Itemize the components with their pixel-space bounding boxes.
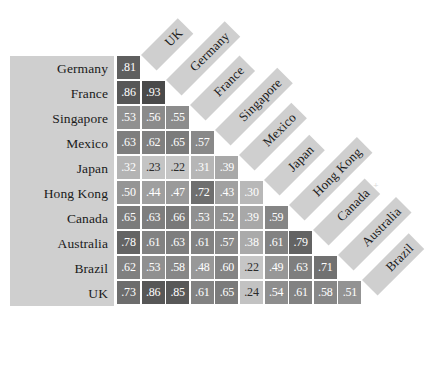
matrix-cell: .44 (142, 181, 165, 204)
matrix-cell: .93 (142, 81, 165, 104)
matrix-cell: .63 (289, 256, 312, 279)
matrix-cell: .51 (338, 281, 361, 304)
matrix-cell: .57 (191, 131, 214, 154)
matrix-cell: .57 (215, 231, 238, 254)
matrix-cell: .31 (191, 156, 214, 179)
matrix-cell: .22 (166, 156, 189, 179)
matrix-cell: .52 (215, 206, 238, 229)
matrix-cell: .49 (265, 256, 288, 279)
matrix-cell: .50 (117, 181, 140, 204)
matrix-cell: .65 (117, 206, 140, 229)
matrix-cell: .43 (215, 181, 238, 204)
matrix-cell: .86 (142, 281, 165, 304)
matrix-cell: .62 (117, 256, 140, 279)
matrix-cell: .23 (142, 156, 165, 179)
row-label-france: France (10, 81, 114, 106)
matrix-cell: .32 (117, 156, 140, 179)
row-label-australia: Australia (10, 231, 114, 256)
matrix-cell: .61 (265, 231, 288, 254)
matrix-cell: .56 (142, 106, 165, 129)
matrix-cell: .30 (240, 181, 263, 204)
matrix-cell: .81 (117, 56, 140, 79)
matrix-cell: .78 (117, 231, 140, 254)
matrix-cell: .53 (142, 256, 165, 279)
row-label-canada: Canada (10, 206, 114, 231)
matrix-cell: .61 (191, 281, 214, 304)
matrix-cell: .58 (166, 256, 189, 279)
matrix-cell: .85 (166, 281, 189, 304)
scan-artifact: ⁺ (373, 182, 379, 193)
matrix-cell: .63 (117, 131, 140, 154)
matrix-cell: .53 (117, 106, 140, 129)
matrix-cell: .65 (166, 131, 189, 154)
matrix-cell: .47 (166, 181, 189, 204)
matrix-cell: .66 (166, 206, 189, 229)
matrix-cell: .55 (166, 106, 189, 129)
row-label-brazil: Brazil (10, 256, 114, 281)
matrix-cell: .61 (289, 281, 312, 304)
matrix-cell: .39 (215, 156, 238, 179)
matrix-cell: .53 (191, 206, 214, 229)
matrix-cell: .79 (289, 231, 312, 254)
matrix-cell: .73 (117, 281, 140, 304)
matrix-cell: .63 (142, 206, 165, 229)
matrix-cell: .22 (240, 256, 263, 279)
matrix-cell: .72 (191, 181, 214, 204)
matrix-cell: .24 (240, 281, 263, 304)
row-label-singapore: Singapore (10, 106, 114, 131)
matrix-cell: .38 (240, 231, 263, 254)
matrix-cell: .71 (314, 256, 337, 279)
matrix-cell: .39 (240, 206, 263, 229)
matrix-cell: .60 (215, 256, 238, 279)
row-label-uk: UK (10, 281, 114, 306)
matrix-cell: .59 (265, 206, 288, 229)
row-label-germany: Germany (10, 56, 114, 81)
row-label-mexico: Mexico (10, 131, 114, 156)
matrix-cell: .58 (314, 281, 337, 304)
row-label-hong-kong: Hong Kong (10, 181, 114, 206)
matrix-cell: .54 (265, 281, 288, 304)
matrix-cell: .62 (142, 131, 165, 154)
row-label-japan: Japan (10, 156, 114, 181)
matrix-cell: .65 (215, 281, 238, 304)
matrix-cell: .63 (166, 231, 189, 254)
matrix-cell: .61 (142, 231, 165, 254)
matrix-cell: .61 (191, 231, 214, 254)
matrix-cell: .48 (191, 256, 214, 279)
matrix-cell: .86 (117, 81, 140, 104)
